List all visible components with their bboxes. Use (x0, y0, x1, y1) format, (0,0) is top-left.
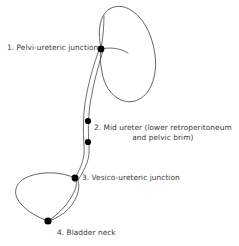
label-mid-ureter: 2. Mid ureter (lower retroperitoneumand … (94, 123, 232, 143)
label-vesico-ureteric-junction: 3. Vesico-ureteric junction (82, 173, 180, 183)
kidney-outline (99, 6, 155, 101)
label-mid-ureter-line1: 2. Mid ureter (lower retroperitoneum (94, 123, 232, 132)
bladder-outline (16, 173, 77, 221)
anatomical-figure: 1. Pelvi-ureteric junction 2. Mid ureter… (0, 0, 239, 246)
label-mid-ureter-line2: and pelvic brim) (94, 133, 232, 143)
ureter-wall-right (78, 51, 103, 180)
vesico-ureteric-junction-marker (72, 175, 79, 182)
label-bladder-neck: 4. Bladder neck (57, 228, 116, 238)
bladder-right-wall (48, 180, 79, 221)
mid-ureter-upper-marker (85, 118, 91, 124)
mid-ureter-lower-marker (85, 139, 91, 145)
bladder-neck-marker (44, 217, 51, 224)
ureter-wall-left (75, 50, 99, 178)
renal-pelvis-leader (101, 48, 128, 53)
pelvi-ureteric-junction-marker (98, 46, 105, 53)
label-pelvi-ureteric-junction: 1. Pelvi-ureteric junction (7, 43, 98, 53)
